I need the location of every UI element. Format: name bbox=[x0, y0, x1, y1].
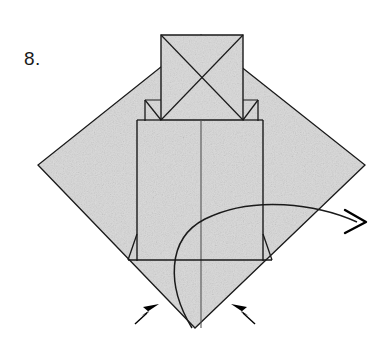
push-arrow-right bbox=[231, 304, 255, 324]
origami-figure: 8. bbox=[0, 0, 388, 351]
push-arrow-left bbox=[135, 304, 159, 324]
top-square-group bbox=[161, 35, 243, 120]
push-arrow-left-head bbox=[141, 304, 159, 316]
origami-diagram-svg bbox=[0, 0, 388, 351]
push-arrow-right-head bbox=[231, 304, 249, 316]
push-arrow-left-tail bbox=[135, 313, 147, 324]
push-arrow-right-tail bbox=[243, 313, 255, 324]
